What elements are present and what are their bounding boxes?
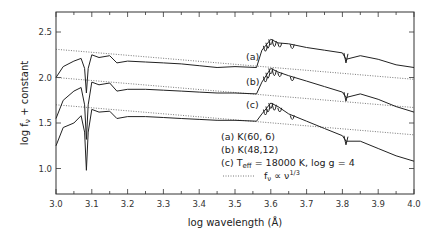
x-tick-label: 3.8 <box>336 199 350 209</box>
absorption-line <box>278 43 282 47</box>
series-line <box>56 39 414 93</box>
absorption-line <box>278 108 282 112</box>
x-axis-title: log wavelength (Å) <box>188 216 283 228</box>
absorption-line <box>272 70 276 75</box>
x-axis-ticks: 3.03.13.23.33.43.53.63.73.83.94.0 <box>49 12 421 209</box>
series-label-c: (c) <box>246 99 259 110</box>
y-tick-label: 1.5 <box>38 118 52 128</box>
y-tick-label: 2.0 <box>38 73 52 83</box>
legend-item-a: (a) K(60, 6) <box>221 131 275 142</box>
absorption-line <box>272 105 276 110</box>
y-axis-title: log fν + constant <box>19 61 32 145</box>
absorption-line <box>278 73 282 77</box>
legend-item-c: (c) Teff = 18000 K, log g = 4 <box>221 157 355 170</box>
spectrum-chart: 3.03.13.23.33.43.53.63.73.83.94.0 1.01.5… <box>0 0 438 235</box>
absorption-line <box>344 53 348 63</box>
y-tick-label: 2.5 <box>38 27 52 37</box>
series-line <box>56 68 414 139</box>
x-tick-label: 3.6 <box>264 199 278 209</box>
x-tick-label: 3.5 <box>228 199 242 209</box>
absorption-line <box>290 115 294 119</box>
legend-item-powerlaw: fν ∝ ν1/3 <box>264 169 300 183</box>
y-tick-label: 1.0 <box>38 164 52 174</box>
legend: (a) K(60, 6) (b) K(48,12) (c) Teff = 180… <box>221 131 355 183</box>
series-label-b: (b) <box>246 76 259 87</box>
power-law-reference-lines <box>56 49 414 135</box>
reference-line <box>56 49 414 79</box>
absorption-line <box>290 45 294 49</box>
x-tick-label: 3.4 <box>192 199 206 209</box>
x-tick-label: 3.1 <box>85 199 99 209</box>
absorption-line <box>290 77 294 81</box>
x-tick-label: 3.7 <box>300 199 314 209</box>
x-tick-label: 3.2 <box>121 199 135 209</box>
x-tick-label: 3.9 <box>371 199 385 209</box>
x-tick-label: 3.0 <box>49 199 63 209</box>
legend-item-b: (b) K(48,12) <box>221 144 278 155</box>
x-tick-label: 3.3 <box>157 199 171 209</box>
x-tick-label: 4.0 <box>407 199 421 209</box>
absorption-line <box>272 41 276 46</box>
series-label-a: (a) <box>246 51 259 62</box>
